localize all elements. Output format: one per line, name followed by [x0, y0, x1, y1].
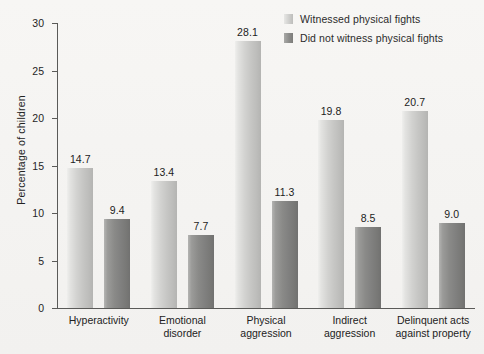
bar: 11.3: [272, 201, 298, 308]
bar-value-label: 9.0: [444, 208, 459, 220]
x-axis-category-label: Physical aggression: [224, 314, 308, 340]
bar-value-label: 13.4: [153, 166, 174, 178]
x-axis-category-label: Delinquent acts against property: [391, 314, 475, 340]
y-axis-tick: 5: [52, 261, 57, 262]
bar-chart: Witnessed physical fights Did not witnes…: [0, 0, 484, 354]
x-axis-category-label: Hyperactivity: [57, 314, 141, 327]
bar-value-label: 14.7: [70, 153, 91, 165]
bar: 8.5: [355, 227, 381, 308]
y-axis-tick: 15: [52, 166, 57, 167]
y-axis-title: Percentage of children: [14, 0, 28, 300]
bar: 14.7: [67, 168, 93, 308]
legend-swatch-icon-witnessed: [284, 14, 293, 24]
bar: 7.7: [188, 235, 214, 308]
bar: 19.8: [318, 120, 344, 308]
bar: 28.1: [235, 41, 261, 308]
bar-value-label: 8.5: [361, 212, 376, 224]
y-axis-tick-label: 5: [38, 255, 44, 267]
y-axis-tick-label: 0: [38, 302, 44, 314]
x-axis-category-label: Indirect aggression: [308, 314, 392, 340]
bar-value-label: 9.4: [110, 204, 125, 216]
y-axis-tick-label: 15: [32, 160, 44, 172]
x-axis-category-label: Emotional disorder: [141, 314, 225, 340]
bar: 9.4: [104, 219, 130, 308]
y-axis-tick-label: 10: [32, 207, 44, 219]
y-axis-tick: 20: [52, 118, 57, 119]
bar-value-label: 7.7: [193, 220, 208, 232]
bar-value-label: 20.7: [404, 96, 425, 108]
y-axis-tick: 30: [52, 23, 57, 24]
y-axis-tick-label: 25: [32, 65, 44, 77]
y-axis-tick-label: 20: [32, 112, 44, 124]
x-axis-line: [57, 308, 475, 309]
y-axis-tick: 10: [52, 213, 57, 214]
bar-value-label: 11.3: [274, 186, 294, 198]
bar: 9.0: [439, 223, 465, 309]
bar-value-label: 19.8: [321, 105, 342, 117]
y-axis-tick-label: 30: [32, 17, 44, 29]
y-axis-tick: 25: [52, 71, 57, 72]
bar: 13.4: [151, 181, 177, 308]
bar-value-label: 28.1: [237, 26, 258, 38]
y-axis-tick: 0: [52, 308, 57, 309]
plot-area: 051015202530 14.79.413.47.728.111.319.88…: [57, 23, 475, 308]
bar: 20.7: [402, 111, 428, 308]
y-axis-line: [57, 23, 58, 308]
